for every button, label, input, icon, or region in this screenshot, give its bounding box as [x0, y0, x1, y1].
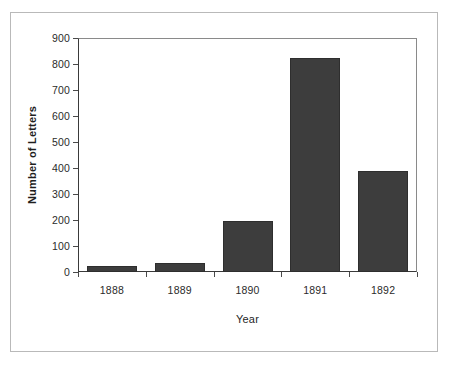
y-axis-tick-label: 700: [52, 84, 70, 96]
y-axis-tick: [73, 116, 78, 117]
y-axis-tick-label: 400: [52, 162, 70, 174]
y-axis-tick: [73, 194, 78, 195]
y-axis-tick: [73, 64, 78, 65]
x-axis-tick: [146, 272, 147, 277]
bar: [87, 266, 137, 272]
y-axis-tick: [73, 246, 78, 247]
x-axis-tick-label: 1888: [100, 284, 124, 296]
x-axis-tick: [281, 272, 282, 277]
chart-page: Number of Letters 0100200300400500600700…: [0, 0, 449, 366]
y-axis-tick-label: 300: [52, 188, 70, 200]
bar: [358, 171, 408, 272]
x-axis-title: Year: [78, 313, 417, 325]
y-axis-tick-label: 800: [52, 58, 70, 70]
x-axis-tick-label: 1890: [235, 284, 259, 296]
bar: [223, 221, 273, 272]
y-axis-tick: [73, 168, 78, 169]
plot-area: 0100200300400500600700800900 18881889189…: [78, 38, 417, 272]
y-axis-tick-label: 600: [52, 110, 70, 122]
x-axis-tick: [417, 272, 418, 277]
bar: [155, 263, 205, 272]
y-axis-tick-label: 500: [52, 136, 70, 148]
y-axis-tick-label: 0: [64, 266, 70, 278]
y-axis-tick: [73, 142, 78, 143]
x-axis-tick-label: 1889: [168, 284, 192, 296]
y-axis-tick-label: 100: [52, 240, 70, 252]
y-axis-title: Number of Letters: [24, 38, 40, 272]
x-axis-tick: [78, 272, 79, 277]
y-axis-tick-label: 900: [52, 32, 70, 44]
x-axis-tick: [214, 272, 215, 277]
y-axis-tick: [73, 38, 78, 39]
x-axis-tick: [349, 272, 350, 277]
x-axis-tick-label: 1892: [371, 284, 395, 296]
y-axis-tick: [73, 220, 78, 221]
bar: [290, 58, 340, 273]
y-axis-tick-label: 200: [52, 214, 70, 226]
y-axis-tick: [73, 90, 78, 91]
x-axis-tick-label: 1891: [303, 284, 327, 296]
